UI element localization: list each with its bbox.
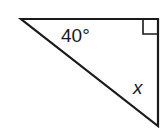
unknown-angle-label-x: x	[132, 77, 144, 98]
right-triangle-diagram: 40° x	[0, 0, 165, 134]
right-angle-marker	[143, 19, 158, 34]
angle-label-40: 40°	[61, 25, 90, 46]
